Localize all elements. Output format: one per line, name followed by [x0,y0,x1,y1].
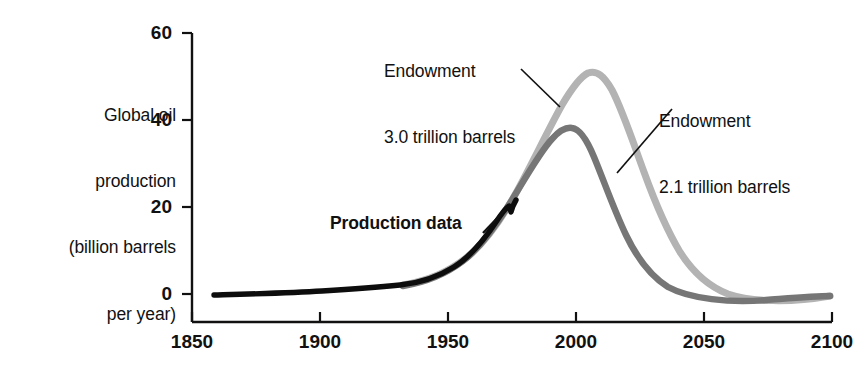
y-axis-title-line-4: per year) [18,303,176,325]
x-tick-label-1900: 1900 [285,331,355,353]
x-tick-label-1950: 1950 [413,331,483,353]
annotation-endowment-3-0-line-1: Endowment [384,60,515,82]
y-tick-label-20: 20 [128,196,172,218]
figure-root: Global oil production (billion barrels p… [0,0,868,371]
annotation-endowment-3-0: Endowment 3.0 trillion barrels [384,16,515,192]
y-tick-label-60: 60 [128,22,172,44]
y-tick-label-40: 40 [128,109,172,131]
x-axis-ticks [192,312,832,322]
annotation-endowment-2-1: Endowment 2.1 trillion barrels [659,66,790,242]
annotation-endowment-2-1-line-1: Endowment [659,110,790,132]
x-tick-label-2050: 2050 [669,331,739,353]
y-axis-title-line-3: (billion barrels [18,236,176,258]
y-axis-ticks [182,33,192,294]
annotation-production-data: Production data [330,212,462,234]
y-tick-label-0: 0 [128,283,172,305]
x-tick-label-2000: 2000 [541,331,611,353]
leader-line-endowment-3-0 [521,69,560,107]
x-tick-label-1850: 1850 [157,331,227,353]
annotation-endowment-3-0-line-2: 3.0 trillion barrels [384,126,515,148]
annotation-endowment-2-1-line-2: 2.1 trillion barrels [659,176,790,198]
x-tick-label-2100: 2100 [797,331,867,353]
y-axis-title-line-2: production [18,170,176,192]
